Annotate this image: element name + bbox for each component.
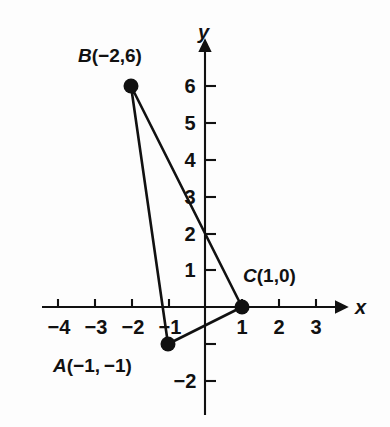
y-tick-label-neg2: −2 [174,371,197,391]
point-label-b-coords: (−2,6) [92,45,142,66]
y-tick-label-1: 1 [184,260,195,280]
point-marker-b [124,79,139,94]
x-tick-label-neg2: −2 [122,317,145,337]
point-label-c-coords: (1,0) [257,265,296,286]
x-axis-label: x [355,297,366,317]
y-tick-label-3: 3 [184,187,195,207]
x-tick-label-neg3: −3 [85,317,108,337]
y-tick-label-5: 5 [184,113,195,133]
x-tick-label-neg4: −4 [48,317,71,337]
point-label-a-coords: (−1, −1) [67,355,132,376]
x-tick-label-3: 3 [310,317,321,337]
point-label-c-letter: C [243,265,257,286]
point-label-a: A(−1, −1) [53,356,132,375]
point-label-a-letter: A [53,355,67,376]
y-tick-label-6: 6 [184,76,195,96]
point-label-c: C(1,0) [243,266,296,285]
y-axis-ticks [205,86,216,381]
y-tick-label-2: 2 [184,224,195,244]
point-label-b: B(−2,6) [78,46,142,65]
point-marker-c [235,300,250,315]
y-tick-label-4: 4 [184,150,195,170]
coordinate-plane-figure: y x −4 −3 −2 −1 1 2 3 6 5 4 3 2 1 −2 B(−… [0,0,390,427]
x-tick-label-neg1: −1 [159,317,182,337]
x-axis-ticks [58,299,316,307]
x-tick-label-1: 1 [236,317,247,337]
point-marker-a [161,337,176,352]
point-label-b-letter: B [78,45,92,66]
x-tick-label-2: 2 [273,317,284,337]
y-axis-label: y [198,22,209,42]
